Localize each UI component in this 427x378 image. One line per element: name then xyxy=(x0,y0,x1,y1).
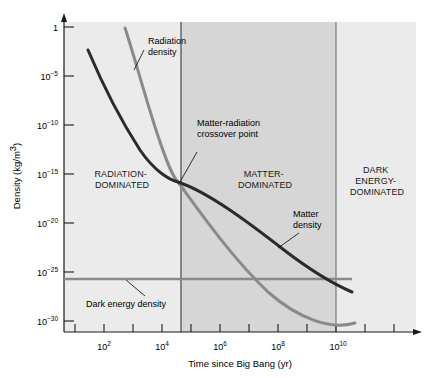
zone-label-matter-dominated: MATTER- DOMINATED xyxy=(238,169,293,190)
x-tick-label-3: 108 xyxy=(271,340,285,352)
x-axis-arrowhead xyxy=(413,329,422,335)
y-tick-label-4: 10−20 xyxy=(37,217,58,229)
zone-label-radiation-dominated: RADIATION- DOMINATED xyxy=(95,169,150,190)
y-axis-tick-labels: 1 10−5 10−10 10−15 10−20 10−25 10−30 xyxy=(37,23,58,327)
x-axis-tick-labels: 102 104 106 108 1010 xyxy=(97,340,347,352)
annotation-dark-energy-density: Dark energy density xyxy=(86,299,167,309)
x-tick-label-4: 1010 xyxy=(329,340,347,352)
x-axis-title: Time since Big Bang (yr) xyxy=(188,358,292,369)
y-tick-label-1: 10−5 xyxy=(41,70,59,82)
y-tick-label-2: 10−10 xyxy=(37,119,58,131)
y-axis-arrowhead xyxy=(61,13,67,22)
y-tick-label-6: 10−30 xyxy=(37,315,58,327)
x-tick-label-0: 102 xyxy=(97,340,111,352)
x-tick-label-1: 104 xyxy=(155,340,169,352)
y-tick-label-3: 10−15 xyxy=(37,168,58,180)
figure-root: 1 10−5 10−10 10−15 10−20 10−25 10−30 Den… xyxy=(0,0,427,378)
annotation-matter-density: Matter density xyxy=(293,209,322,230)
y-tick-label-0: 1 xyxy=(53,23,58,33)
density-vs-time-chart: 1 10−5 10−10 10−15 10−20 10−25 10−30 Den… xyxy=(0,0,427,378)
y-tick-label-5: 10−25 xyxy=(37,266,58,278)
y-axis-title: Density (kg/m3) xyxy=(7,143,22,210)
annotation-crossover-point: Matter-radiation crossover point xyxy=(197,118,263,139)
x-tick-label-2: 106 xyxy=(213,340,227,352)
